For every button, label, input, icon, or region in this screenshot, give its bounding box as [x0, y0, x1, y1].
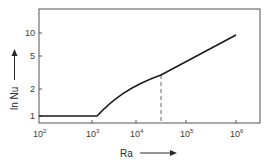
chart-canvas: 10 5 2 1 102 103 104 105 106 Ra ln Nu: [0, 0, 267, 161]
x-tick-labels: 102 103 104 105 106: [33, 128, 244, 139]
y-tick-5: 5: [30, 51, 35, 61]
x-tick-1e3: 103: [86, 128, 100, 139]
nusselt-curve: [39, 35, 236, 116]
y-tick-labels: 10 5 2 1: [25, 28, 35, 121]
x-tick-1e2: 102: [33, 128, 47, 139]
plot-frame: [39, 9, 260, 123]
y-arrowhead-icon: [12, 49, 18, 56]
y-axis-label: ln Nu: [9, 87, 20, 110]
y-tick-1: 1: [30, 111, 35, 121]
x-axis-label: Ra: [120, 148, 133, 159]
x-axis-title: Ra: [120, 148, 177, 159]
x-arrowhead-icon: [170, 150, 177, 156]
y-tick-10: 10: [25, 28, 35, 38]
y-axis-title: ln Nu: [9, 49, 20, 110]
y-tick-2: 2: [30, 84, 35, 94]
x-tick-1e4: 104: [130, 128, 144, 139]
x-tick-1e5: 105: [180, 128, 194, 139]
x-tick-1e6: 106: [230, 128, 244, 139]
